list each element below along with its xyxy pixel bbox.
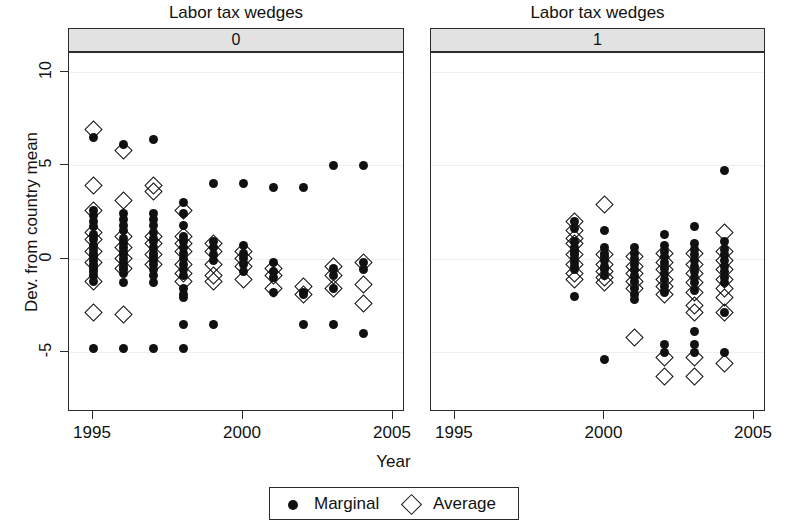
data-point-average (114, 141, 132, 159)
data-point-marginal (149, 135, 158, 144)
scatter-plot-figure: Labor tax wedges Labor tax wedges 0 1 10… (0, 0, 787, 526)
data-point-marginal (299, 320, 308, 329)
data-point-marginal (149, 344, 158, 353)
data-point-average (84, 120, 102, 138)
data-point-marginal (89, 344, 98, 353)
gridline (431, 352, 764, 353)
legend-item-average: Average (401, 488, 496, 519)
data-point-average (114, 306, 132, 324)
data-point-average (84, 177, 102, 195)
panel-title-right: Labor tax wedges (430, 3, 765, 23)
data-point-average (655, 367, 673, 385)
gridline (69, 72, 403, 73)
plot-area-panel-1 (430, 52, 765, 411)
data-point-marginal (269, 183, 278, 192)
x-axis-tick (242, 411, 243, 419)
data-point-marginal (600, 226, 609, 235)
data-point-marginal (570, 292, 579, 301)
gridline (69, 165, 403, 166)
x-axis-tick-label: 2005 (362, 423, 422, 443)
data-point-marginal (720, 166, 729, 175)
data-point-marginal (690, 327, 699, 336)
data-point-average (715, 223, 733, 241)
data-point-average (84, 304, 102, 322)
data-point-marginal (329, 320, 338, 329)
y-axis-label: Dev. from country mean (22, 97, 42, 347)
x-axis-tick (92, 411, 93, 419)
data-point-average (84, 201, 102, 219)
data-point-marginal (690, 222, 699, 231)
data-point-average (354, 294, 372, 312)
x-axis-tick-label: 2000 (573, 423, 633, 443)
data-point-marginal (359, 161, 368, 170)
gridline (69, 352, 403, 353)
data-point-marginal (149, 278, 158, 287)
data-point-average (84, 253, 102, 271)
y-axis-tick (60, 258, 68, 259)
data-point-marginal (239, 179, 248, 188)
data-point-marginal (209, 320, 218, 329)
data-point-average (715, 354, 733, 372)
data-point-marginal (179, 293, 188, 302)
plot-area-panel-0 (68, 52, 404, 411)
y-axis-tick-label: 10 (37, 50, 55, 90)
x-axis-tick (603, 411, 604, 419)
x-axis-label: Year (0, 452, 787, 472)
legend-label-average: Average (433, 494, 496, 514)
data-point-marginal (209, 179, 218, 188)
x-axis-tick-label: 1995 (424, 423, 484, 443)
data-point-average (264, 279, 282, 297)
data-point-average (595, 195, 613, 213)
data-point-average (84, 272, 102, 290)
panel-title-left: Labor tax wedges (68, 3, 404, 23)
panel-strip-label-left: 0 (68, 28, 404, 52)
gridline (431, 259, 764, 260)
y-axis-tick (60, 164, 68, 165)
data-point-marginal (359, 329, 368, 338)
data-point-average (685, 367, 703, 385)
legend: Marginal Average (269, 487, 519, 520)
open-diamond-icon (401, 493, 423, 515)
x-axis-tick-label: 2000 (212, 423, 272, 443)
data-point-average (234, 270, 252, 288)
data-point-average (354, 253, 372, 271)
x-axis-tick-label: 1995 (62, 423, 122, 443)
data-point-marginal (329, 161, 338, 170)
x-axis-tick (454, 411, 455, 419)
data-point-marginal (660, 230, 669, 239)
data-point-average (114, 192, 132, 210)
panel-strip-label-right: 1 (430, 28, 765, 52)
legend-label-marginal: Marginal (314, 494, 379, 514)
x-axis-tick (753, 411, 754, 419)
y-axis-tick (60, 71, 68, 72)
gridline (431, 72, 764, 73)
data-point-marginal (179, 320, 188, 329)
data-point-marginal (119, 344, 128, 353)
data-point-average (625, 328, 643, 346)
y-axis-tick (60, 351, 68, 352)
data-point-average (174, 201, 192, 219)
data-point-average (354, 276, 372, 294)
data-point-average (324, 279, 342, 297)
x-axis-tick-label: 2005 (723, 423, 783, 443)
data-point-marginal (179, 344, 188, 353)
x-axis-tick (392, 411, 393, 419)
data-point-marginal (119, 278, 128, 287)
data-point-marginal (299, 183, 308, 192)
data-point-average (715, 304, 733, 322)
legend-item-marginal: Marginal (282, 488, 379, 519)
filled-circle-icon (282, 493, 304, 515)
gridline (431, 165, 764, 166)
data-point-marginal (600, 355, 609, 364)
